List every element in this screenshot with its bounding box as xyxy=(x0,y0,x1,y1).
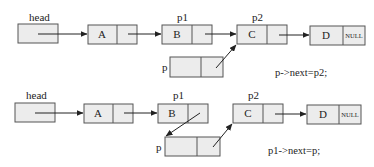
step-1-diagram: head A p1 B p2 C D NULL p xyxy=(18,11,365,78)
node-B-value: B xyxy=(168,107,175,119)
code-step-2: p1->next=p; xyxy=(268,145,320,156)
diagram-canvas: head A p1 B p2 C D NULL p xyxy=(0,0,374,167)
node-A-value: A xyxy=(94,107,102,119)
node-C-value: C xyxy=(244,107,251,119)
p2-label: p2 xyxy=(252,11,263,23)
node-C-value: C xyxy=(248,28,255,40)
null-label: NULL xyxy=(341,111,358,118)
new-node-p xyxy=(165,137,220,156)
arrow-p-to-C xyxy=(213,124,232,147)
p-label: p xyxy=(162,61,168,73)
node-D-value: D xyxy=(322,29,330,41)
node-B: B xyxy=(162,25,212,44)
node-D-value: D xyxy=(319,108,327,120)
node-A-value: A xyxy=(98,28,106,40)
p2-label: p2 xyxy=(248,89,259,101)
node-B-value: B xyxy=(173,28,180,40)
node-B: B xyxy=(158,104,208,123)
code-step-1: p->next=p2; xyxy=(275,67,327,78)
new-node-p xyxy=(170,57,223,77)
linked-list-diagram: head A p1 B p2 C D NULL p xyxy=(0,0,374,167)
p1-label: p1 xyxy=(173,89,184,101)
p-label: p xyxy=(156,141,162,153)
node-D: D NULL xyxy=(307,105,361,124)
null-label: NULL xyxy=(345,32,362,39)
node-D: D NULL xyxy=(310,26,365,45)
p1-label: p1 xyxy=(177,11,188,23)
head-label: head xyxy=(29,11,50,23)
head-label: head xyxy=(26,89,47,101)
step-2-diagram: head A p1 B p2 C D NULL p xyxy=(15,89,361,156)
